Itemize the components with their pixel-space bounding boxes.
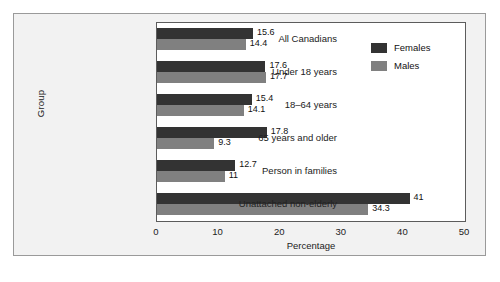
legend-swatch-icon — [371, 43, 387, 53]
category-label: All Canadians — [217, 33, 337, 44]
bar-value-label: 34.3 — [372, 203, 390, 214]
category-label: 18–64 years — [217, 99, 337, 110]
x-tick-label: 20 — [264, 226, 294, 237]
bar-males — [157, 138, 214, 149]
y-axis-title: Group — [35, 64, 46, 144]
category-label: Under 18 years — [217, 66, 337, 77]
bar-value-label: 41 — [414, 192, 424, 203]
category-label: 65 years and older — [217, 132, 337, 143]
category-label: Person in families — [217, 165, 337, 176]
chart-figure: Group 15.614.417.617.715.414.117.89.312.… — [13, 13, 486, 256]
x-tick-label: 0 — [141, 226, 171, 237]
chart-legend: FemalesMales — [371, 40, 430, 76]
legend-swatch-icon — [371, 61, 387, 71]
legend-item: Females — [371, 40, 430, 55]
legend-label: Females — [394, 42, 430, 53]
bar-males — [157, 171, 225, 182]
x-tick-label: 40 — [387, 226, 417, 237]
x-axis-title: Percentage — [156, 240, 466, 251]
x-tick-label: 50 — [449, 226, 479, 237]
x-tick-label: 10 — [203, 226, 233, 237]
x-tick-label: 30 — [326, 226, 356, 237]
legend-label: Males — [394, 60, 419, 71]
category-label: Unattached non-elderly — [217, 198, 337, 209]
legend-item: Males — [371, 58, 430, 73]
